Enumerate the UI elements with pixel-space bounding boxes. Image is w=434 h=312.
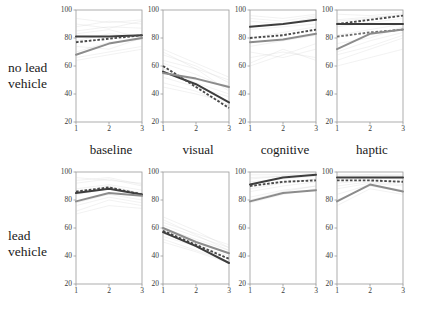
panel-plot: 20406080100123 [143, 6, 233, 138]
y-axis-tick-label: 100 [61, 168, 73, 176]
y-axis-tick-label: 20 [152, 117, 160, 126]
y-axis-tick-label: 20 [152, 279, 160, 288]
y-axis-tick-label: 40 [239, 89, 247, 98]
y-axis-tick-label: 100 [322, 6, 334, 14]
y-axis-tick-label: 20 [65, 117, 73, 126]
y-axis-tick-label: 100 [148, 168, 160, 176]
x-axis-tick-label: 2 [368, 286, 372, 295]
plot-frame [163, 172, 229, 284]
y-axis-tick-label: 40 [152, 251, 160, 260]
x-axis-tick-label: 2 [107, 286, 111, 295]
y-axis-tick-label: 60 [326, 223, 334, 232]
column-label-haptic: haptic [332, 142, 412, 158]
series-line-dark-solid [163, 232, 229, 263]
x-axis-tick-label: 1 [335, 124, 339, 133]
background-trace [337, 186, 403, 200]
panel-plot: 20406080100123 [56, 168, 146, 300]
series-line-dark-solid [250, 20, 316, 27]
x-axis-tick-label: 1 [335, 286, 339, 295]
y-axis-tick-label: 40 [65, 89, 73, 98]
y-axis-tick-label: 20 [239, 279, 247, 288]
x-axis-tick-label: 1 [74, 286, 78, 295]
row-label-no-lead-vehicle: no lead vehicle [8, 60, 47, 92]
panel-plot: 20406080100123 [56, 6, 146, 138]
y-axis-tick-label: 60 [65, 223, 73, 232]
panel-no-lead-haptic: 20406080100123 [317, 6, 407, 138]
panel-plot: 20406080100123 [317, 6, 407, 138]
column-label-baseline: baseline [71, 142, 151, 158]
y-axis-tick-label: 100 [322, 168, 334, 176]
panel-plot: 20406080100123 [230, 168, 320, 300]
x-axis-tick-label: 2 [194, 124, 198, 133]
y-axis-tick-label: 20 [326, 279, 334, 288]
series-line-dashed [163, 66, 229, 108]
x-axis-tick-label: 2 [368, 124, 372, 133]
y-axis-tick-label: 80 [326, 33, 334, 42]
panel-lead-baseline: 20406080100123 [56, 168, 146, 300]
background-trace [76, 21, 142, 28]
panel-lead-cognitive: 20406080100123 [230, 168, 320, 300]
y-axis-tick-label: 20 [326, 117, 334, 126]
figure-small-multiples: no lead vehicle lead vehicle baseline vi… [0, 0, 434, 312]
panel-plot: 20406080100123 [230, 6, 320, 138]
y-axis-tick-label: 60 [326, 61, 334, 70]
background-trace [163, 87, 229, 102]
y-axis-tick-label: 60 [65, 61, 73, 70]
panel-lead-visual: 20406080100123 [143, 168, 233, 300]
column-label-cognitive: cognitive [245, 142, 325, 158]
y-axis-tick-label: 100 [235, 6, 247, 14]
background-trace [250, 14, 316, 18]
y-axis-tick-label: 60 [239, 223, 247, 232]
panel-no-lead-visual: 20406080100123 [143, 6, 233, 138]
y-axis-tick-label: 40 [326, 251, 334, 260]
y-axis-tick-label: 20 [239, 117, 247, 126]
y-axis-tick-label: 100 [61, 6, 73, 14]
y-axis-tick-label: 60 [152, 223, 160, 232]
background-trace [337, 49, 403, 66]
background-trace [76, 206, 142, 214]
background-trace [250, 44, 316, 66]
y-axis-tick-label: 80 [152, 195, 160, 204]
y-axis-tick-label: 80 [65, 33, 73, 42]
series-line-gray-solid [250, 190, 316, 201]
x-axis-tick-label: 1 [161, 286, 165, 295]
plot-frame [250, 172, 316, 284]
y-axis-tick-label: 40 [239, 251, 247, 260]
background-trace [76, 27, 142, 31]
x-axis-tick-label: 2 [107, 124, 111, 133]
background-trace [250, 49, 316, 57]
x-axis-tick-label: 3 [401, 124, 405, 133]
y-axis-tick-label: 80 [239, 33, 247, 42]
x-axis-tick-label: 1 [74, 124, 78, 133]
panel-plot: 20406080100123 [317, 168, 407, 300]
y-axis-tick-label: 40 [152, 89, 160, 98]
y-axis-tick-label: 40 [65, 251, 73, 260]
x-axis-tick-label: 2 [281, 286, 285, 295]
y-axis-tick-label: 80 [239, 195, 247, 204]
panel-plot: 20406080100123 [143, 168, 233, 300]
background-trace [163, 69, 229, 94]
background-trace [337, 13, 403, 16]
background-trace [337, 38, 403, 60]
plot-frame [337, 10, 403, 122]
series-line-gray-solid [163, 228, 229, 253]
background-trace [250, 173, 316, 174]
panel-no-lead-baseline: 20406080100123 [56, 6, 146, 138]
y-axis-tick-label: 40 [326, 89, 334, 98]
y-axis-tick-label: 80 [152, 33, 160, 42]
background-trace [76, 21, 142, 27]
x-axis-tick-label: 1 [248, 286, 252, 295]
x-axis-tick-label: 1 [161, 124, 165, 133]
x-axis-tick-label: 3 [401, 286, 405, 295]
y-axis-tick-label: 20 [65, 279, 73, 288]
panel-no-lead-cognitive: 20406080100123 [230, 6, 320, 138]
y-axis-tick-label: 80 [326, 195, 334, 204]
y-axis-tick-label: 60 [239, 61, 247, 70]
y-axis-tick-label: 100 [235, 168, 247, 176]
y-axis-tick-label: 80 [65, 195, 73, 204]
row-label-lead-vehicle: lead vehicle [8, 228, 47, 260]
column-label-visual: visual [158, 142, 238, 158]
y-axis-tick-label: 100 [148, 6, 160, 14]
x-axis-tick-label: 2 [281, 124, 285, 133]
background-trace [250, 49, 316, 63]
